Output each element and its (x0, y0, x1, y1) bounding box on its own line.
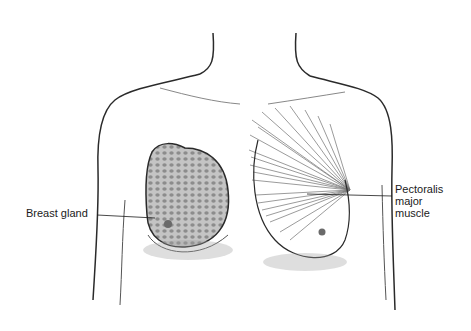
nipple-left (164, 220, 172, 228)
neck-outline (200, 33, 310, 76)
chest-illustration (0, 0, 471, 331)
label-line-2: major (395, 195, 443, 207)
label-line-3: muscle (395, 207, 443, 219)
shading-left (143, 240, 233, 260)
nipple-right (319, 229, 326, 236)
arm-line-left (120, 200, 125, 305)
shading-right (263, 253, 347, 271)
label-breast-gland: Breast gland (26, 207, 88, 219)
arm-line-right (382, 185, 386, 300)
clavicle-right (268, 92, 345, 104)
pectoralis-major-muscle (249, 106, 350, 240)
breast-gland-shape (146, 144, 229, 247)
label-pectoralis-major-muscle: Pectoralis major muscle (395, 183, 443, 219)
clavicle-left (160, 88, 240, 104)
label-line-1: Pectoralis (395, 183, 443, 195)
anatomy-diagram: Breast gland Pectoralis major muscle (0, 0, 471, 331)
leader-line-pectoralis (307, 194, 392, 196)
